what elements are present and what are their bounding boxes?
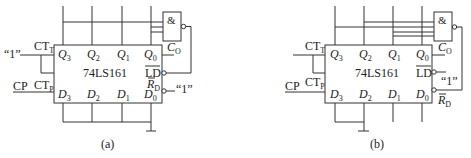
cp-label: CP xyxy=(285,79,300,93)
panel-a: & 74LS161 Q3 Q2 Q1 Q0 D3 D2 D1 D0 CO LD … xyxy=(4,6,193,151)
caption-a: (a) xyxy=(101,137,114,151)
cp-label: CP xyxy=(13,79,28,93)
ctp-label: CTP xyxy=(305,75,325,91)
rd-label: RD xyxy=(437,93,451,109)
gate-output-bubble xyxy=(452,25,456,29)
ct-one-label: “1” xyxy=(4,47,21,61)
ld-label: LD xyxy=(416,66,432,80)
ctt-label: CTT xyxy=(305,39,325,55)
ctp-loop-wire xyxy=(41,55,54,73)
rd-bubble xyxy=(162,89,166,93)
caption-b: (b) xyxy=(370,137,384,151)
ctt-label: CTT xyxy=(34,39,54,55)
ld-bubble xyxy=(162,71,166,75)
ld-bubble xyxy=(432,70,436,74)
ctp-loop-wire xyxy=(313,55,325,73)
gate-symbol: & xyxy=(167,14,176,26)
gate-output-bubble xyxy=(181,24,185,28)
panel-b: & 74LS161 Q3 Q2 Q1 Q0 D3 D2 D1 D0 CO LD … xyxy=(285,6,462,151)
rd-one-label: “1” xyxy=(176,82,193,96)
co-label: CO xyxy=(167,40,181,56)
gate-symbol: & xyxy=(438,14,447,26)
chip-label: 74LS161 xyxy=(355,66,399,80)
chip-label: 74LS161 xyxy=(83,66,127,80)
co-label: CO xyxy=(438,40,452,56)
ld-one-label: “1” xyxy=(441,74,458,88)
counter-diagrams: & 74LS161 Q3 Q2 Q1 Q0 D3 D2 D1 D0 CO LD … xyxy=(0,0,471,158)
rd-bubble xyxy=(432,88,436,92)
